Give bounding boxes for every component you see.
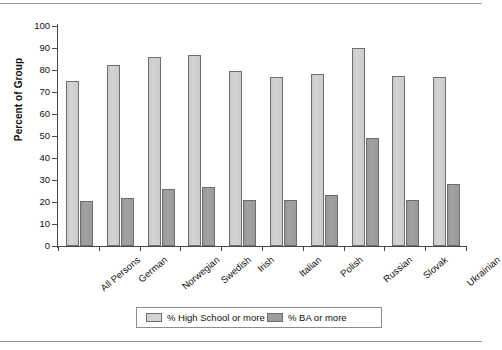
bar-ba: [202, 187, 215, 246]
x-axis-tick: [384, 246, 385, 251]
bar-group: [229, 26, 256, 246]
legend-item-ba: % BA or more: [267, 312, 347, 323]
bar-group: [188, 26, 215, 246]
x-axis-tick: [262, 246, 263, 251]
x-axis-tick: [466, 246, 467, 251]
legend-label-high-school: % High School or more: [167, 312, 265, 323]
x-axis-tick: [99, 246, 100, 251]
y-axis-tick-label: 0: [10, 241, 50, 251]
bar-group: [433, 26, 460, 246]
x-axis-label: German: [136, 254, 169, 284]
y-axis-tick-label: 40: [10, 153, 50, 163]
x-axis-label: Slovak: [420, 254, 449, 281]
y-axis-tick-label: 60: [10, 109, 50, 119]
plot-area: [58, 26, 466, 246]
bar-ba: [80, 201, 93, 246]
x-axis-tick: [425, 246, 426, 251]
bar-high-school: [270, 77, 283, 246]
bar-high-school: [311, 74, 324, 246]
y-axis-tick-label: 20: [10, 197, 50, 207]
x-axis-tick: [180, 246, 181, 251]
y-axis-tick-label: 100: [10, 21, 50, 31]
legend-swatch-icon-ba: [267, 313, 283, 322]
x-axis-label: Russian: [381, 254, 414, 284]
legend-item-high-school: % High School or more: [146, 312, 265, 323]
bottom-divider-rule: [0, 341, 482, 342]
bar-group: [270, 26, 297, 246]
bar-high-school: [66, 81, 79, 246]
y-axis-tick-label: 90: [10, 43, 50, 53]
bar-ba: [447, 184, 460, 246]
bar-high-school: [148, 57, 161, 246]
bar-ba: [243, 200, 256, 246]
x-axis-label: Irish: [255, 254, 276, 274]
x-axis-label: Norwegian: [180, 254, 222, 292]
bar-high-school: [433, 77, 446, 246]
bar-high-school: [352, 48, 365, 246]
bar-high-school: [229, 71, 242, 246]
bar-ba: [325, 195, 338, 246]
y-axis-tick-label: 80: [10, 65, 50, 75]
y-axis-tick-label: 50: [10, 131, 50, 141]
x-axis-tick: [344, 246, 345, 251]
legend-label-ba: % BA or more: [288, 312, 347, 323]
bar-high-school: [188, 55, 201, 246]
bar-group: [107, 26, 134, 246]
x-axis-tick: [58, 246, 59, 251]
y-axis-tick-labels: 0102030405060708090100: [4, 0, 50, 350]
bar-high-school: [107, 65, 120, 247]
bar-group: [66, 26, 93, 246]
chart-legend: % High School or more % BA or more: [136, 307, 382, 328]
bar-group: [311, 26, 338, 246]
x-axis-tick: [221, 246, 222, 251]
bar-ba: [406, 200, 419, 246]
x-axis-label: Polish: [338, 254, 365, 279]
bar-ba: [162, 189, 175, 246]
y-axis-tick-label: 30: [10, 175, 50, 185]
legend-swatch-icon-high-school: [146, 313, 162, 322]
x-axis-label: Swedish: [218, 254, 253, 286]
bar-high-school: [392, 76, 405, 247]
top-divider-rule: [0, 3, 482, 4]
bar-group: [392, 26, 419, 246]
x-axis-label: Ukrainian: [464, 254, 502, 288]
y-axis-tick-label: 10: [10, 219, 50, 229]
bar-group: [148, 26, 175, 246]
x-axis-tick: [140, 246, 141, 251]
bar-ba: [284, 200, 297, 246]
x-axis-label: Italian: [297, 254, 323, 279]
bar-ba: [366, 138, 379, 246]
x-axis-label: All Persons: [99, 254, 143, 293]
bar-group: [352, 26, 379, 246]
x-axis-tick: [303, 246, 304, 251]
bar-ba: [121, 198, 134, 246]
y-axis-tick-label: 70: [10, 87, 50, 97]
